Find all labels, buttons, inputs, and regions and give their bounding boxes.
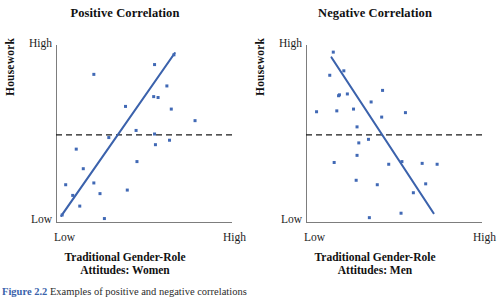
data-point bbox=[436, 163, 439, 166]
data-point bbox=[135, 160, 138, 163]
data-point bbox=[356, 154, 359, 157]
plot-area-right: High Low Low High bbox=[306, 45, 482, 223]
chart-title-positive: Positive Correlation bbox=[0, 6, 250, 21]
data-point bbox=[124, 105, 127, 108]
figure-caption-text: Examples of positive and negative correl… bbox=[50, 286, 247, 297]
data-point bbox=[75, 148, 78, 151]
data-point bbox=[152, 95, 155, 98]
data-point bbox=[82, 167, 85, 170]
chart-title-negative: Negative Correlation bbox=[250, 6, 500, 21]
data-point bbox=[368, 216, 371, 219]
x-tick-high-left: High bbox=[223, 231, 246, 243]
y-tick-low-left: Low bbox=[31, 213, 52, 225]
data-point bbox=[367, 138, 370, 141]
data-point bbox=[424, 182, 427, 185]
scatter-plot-left bbox=[56, 45, 232, 223]
data-point bbox=[168, 139, 171, 142]
x-tick-high-right: High bbox=[473, 231, 496, 243]
data-point bbox=[92, 73, 95, 76]
x-axis-label-right-line2: Attitudes: Men bbox=[250, 264, 500, 277]
data-point bbox=[404, 111, 407, 114]
data-point bbox=[387, 163, 390, 166]
x-tick-low-left: Low bbox=[54, 231, 75, 243]
chart-panel-negative-correlation: Negative Correlation Housework High Low … bbox=[250, 0, 500, 285]
data-point bbox=[153, 133, 156, 136]
data-point bbox=[333, 161, 336, 164]
data-point bbox=[357, 141, 360, 144]
data-point bbox=[337, 94, 340, 97]
x-axis-label-right: Traditional Gender-Role Attitudes: Men bbox=[250, 251, 500, 277]
data-point bbox=[153, 63, 156, 66]
y-tick-high-left: High bbox=[29, 37, 52, 49]
data-point bbox=[103, 217, 106, 220]
data-point bbox=[172, 53, 175, 56]
data-point bbox=[157, 96, 160, 99]
data-point bbox=[71, 194, 74, 197]
data-point bbox=[380, 116, 383, 119]
data-point bbox=[355, 179, 358, 182]
data-point bbox=[170, 108, 173, 111]
x-axis-label-left-line1: Traditional Gender-Role bbox=[0, 251, 250, 264]
x-axis-label-right-line1: Traditional Gender-Role bbox=[250, 251, 500, 264]
data-point bbox=[135, 129, 138, 132]
data-point bbox=[126, 189, 129, 192]
figure-caption-number: Figure 2.2 bbox=[2, 286, 47, 297]
x-axis-label-left-line2: Attitudes: Women bbox=[0, 264, 250, 277]
data-point bbox=[61, 213, 64, 216]
data-point bbox=[400, 212, 403, 215]
y-tick-high-right: High bbox=[279, 37, 302, 49]
y-axis-label-left: Housework bbox=[4, 38, 16, 96]
data-point bbox=[154, 143, 157, 146]
data-point bbox=[376, 183, 379, 186]
data-point bbox=[356, 125, 359, 128]
chart-panel-positive-correlation: Positive Correlation Housework High Low … bbox=[0, 0, 250, 285]
data-point bbox=[342, 69, 345, 72]
data-point bbox=[315, 110, 318, 113]
figure-caption: Figure 2.2 Examples of positive and nega… bbox=[2, 286, 498, 297]
data-point bbox=[165, 84, 168, 87]
data-point bbox=[99, 192, 102, 195]
data-point bbox=[64, 183, 67, 186]
plot-area-left: High Low Low High bbox=[56, 45, 232, 223]
data-point bbox=[107, 136, 110, 139]
data-point bbox=[412, 191, 415, 194]
data-point bbox=[78, 205, 81, 208]
data-point bbox=[332, 51, 335, 54]
data-points-left bbox=[61, 53, 197, 220]
data-point bbox=[352, 108, 355, 111]
figure-container: Positive Correlation Housework High Low … bbox=[0, 0, 500, 297]
data-point bbox=[370, 100, 373, 103]
data-point bbox=[346, 92, 349, 95]
data-point bbox=[400, 160, 403, 163]
scatter-plot-right bbox=[306, 45, 482, 223]
data-point bbox=[194, 119, 197, 122]
x-tick-low-right: Low bbox=[304, 231, 325, 243]
y-axis-label-right: Housework bbox=[254, 38, 266, 96]
data-point bbox=[328, 74, 331, 77]
data-point bbox=[421, 162, 424, 165]
x-axis-label-left: Traditional Gender-Role Attitudes: Women bbox=[0, 251, 250, 277]
data-point bbox=[335, 109, 338, 112]
data-point bbox=[381, 89, 384, 92]
data-point bbox=[92, 181, 95, 184]
y-tick-low-right: Low bbox=[281, 213, 302, 225]
